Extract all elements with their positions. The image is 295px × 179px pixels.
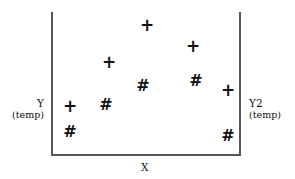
hash-marker-icon: # — [99, 96, 112, 113]
x-axis-line — [51, 154, 241, 156]
hash-marker-icon: # — [221, 127, 234, 144]
y-axis-unit: (temp) — [12, 109, 44, 120]
y-axis-label: Y (temp) — [12, 98, 44, 120]
chart: Y (temp) Y2 (temp) X +++++##### — [0, 0, 295, 179]
y-axis-title: Y — [37, 97, 44, 109]
plus-marker-icon: + — [221, 82, 235, 99]
y2-axis-label: Y2 (temp) — [249, 98, 281, 120]
y2-axis-line — [239, 12, 241, 155]
y2-axis-title: Y2 — [249, 97, 263, 109]
x-axis-label: X — [141, 162, 148, 173]
plus-marker-icon: + — [140, 17, 154, 34]
y2-axis-unit: (temp) — [249, 109, 281, 120]
plus-marker-icon: + — [186, 38, 200, 55]
hash-marker-icon: # — [63, 123, 76, 140]
plus-marker-icon: + — [102, 54, 116, 71]
y-axis-line — [51, 12, 53, 155]
plus-marker-icon: + — [63, 98, 77, 115]
hash-marker-icon: # — [136, 77, 149, 94]
hash-marker-icon: # — [189, 72, 202, 89]
